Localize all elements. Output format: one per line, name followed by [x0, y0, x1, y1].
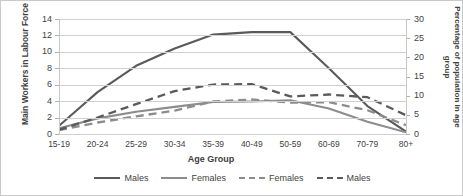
- y-axis-right-tick-label: 25: [414, 34, 424, 43]
- y-axis-left-tick-label: 14: [42, 15, 52, 24]
- gridline: [59, 52, 406, 53]
- legend-swatch-dashed: [239, 177, 265, 179]
- legend-swatch-solid: [161, 177, 187, 179]
- legend-label: Males: [347, 173, 371, 183]
- legend-swatch-dashed: [317, 177, 343, 179]
- x-axis-tick-label: 80+: [399, 139, 413, 149]
- y-axis-right-tick-label: 15: [414, 72, 424, 81]
- x-axis-tick-label: 15-19: [48, 139, 70, 149]
- y-axis-right-tick-label: 20: [414, 53, 424, 62]
- legend-swatch-solid: [94, 177, 120, 179]
- line-chart: Main Workers in Labour Force Percentage …: [0, 0, 463, 196]
- y-axis-left-tick-label: 4: [47, 97, 52, 106]
- legend-item[interactable]: Females: [161, 173, 226, 183]
- plot-area: 02468101214 051015202530 15-1920-2425-29…: [59, 19, 406, 134]
- gridline: [59, 35, 406, 36]
- y-axis-left-tick-label: 2: [47, 113, 52, 122]
- y-axis-right-tick-label: 0: [414, 130, 419, 139]
- y-axis-right-tick-label: 30: [414, 15, 424, 24]
- x-axis-title: Age Group: [1, 154, 421, 164]
- series-line-females-dashed: [59, 100, 406, 131]
- x-axis-tick-label: 25-29: [125, 139, 147, 149]
- chart-legend: MalesFemalesFemalesMales: [1, 173, 463, 183]
- y-axis-right-title: Percentage of population in age group: [442, 0, 462, 137]
- y-axis-left-tick-label: 6: [47, 80, 52, 89]
- y-axis-left-spine: [59, 19, 60, 134]
- legend-item[interactable]: Males: [94, 173, 148, 183]
- x-axis-tick-label: 70-79: [357, 139, 379, 149]
- y-axis-left-tick-label: 12: [42, 31, 52, 40]
- x-axis-tick-label: 60-69: [318, 139, 340, 149]
- legend-label: Females: [191, 173, 226, 183]
- y-axis-left-title: Main Workers in Labour Force: [20, 0, 30, 134]
- gridline: [59, 118, 406, 119]
- gridline: [59, 101, 406, 102]
- gridline: [59, 68, 406, 69]
- y-axis-left-tick-label: 8: [47, 64, 52, 73]
- y-axis-right-spine: [406, 19, 407, 134]
- y-axis-right-tick-label: 10: [414, 91, 424, 100]
- series-line-males-dashed: [59, 84, 406, 130]
- gridline: [59, 19, 406, 20]
- y-axis-left-tick-label: 10: [42, 47, 52, 56]
- x-axis-tick-label: 40-49: [241, 139, 263, 149]
- legend-item[interactable]: Females: [239, 173, 304, 183]
- x-axis-tick-label: 20-24: [87, 139, 109, 149]
- legend-item[interactable]: Males: [317, 173, 371, 183]
- y-axis-right-tick-label: 5: [414, 110, 419, 119]
- gridline: [59, 134, 406, 135]
- x-axis-tick-label: 35-39: [202, 139, 224, 149]
- legend-label: Males: [124, 173, 148, 183]
- gridline: [59, 85, 406, 86]
- series-line-females-solid: [59, 100, 406, 132]
- y-axis-left-tick-mark: [55, 134, 59, 135]
- x-axis-tick-label: 30-34: [164, 139, 186, 149]
- y-axis-right-tick-mark: [406, 134, 410, 135]
- legend-label: Females: [269, 173, 304, 183]
- y-axis-left-tick-label: 0: [47, 130, 52, 139]
- x-axis-tick-label: 50-59: [279, 139, 301, 149]
